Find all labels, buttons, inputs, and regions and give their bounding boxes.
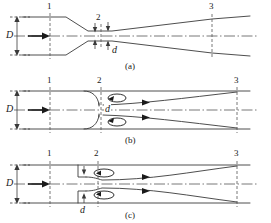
caption-a: (a)	[125, 62, 135, 71]
flow-arrow-a	[28, 32, 50, 39]
dim-label-d-c: d	[80, 205, 85, 215]
upper-wall-a	[22, 16, 250, 31]
flow-arrow-c	[28, 180, 50, 187]
lower-wall-a	[22, 41, 250, 56]
station-label-3-a: 3	[209, 2, 214, 11]
panel-c: 1 2 3 D d (c)	[0, 148, 271, 223]
nozzle-upper-b	[84, 91, 99, 105]
panel-c-drawing	[0, 148, 271, 223]
eddy-upper-b	[108, 94, 126, 102]
eddy-lower-b	[108, 118, 126, 126]
dim-label-d-a: d	[112, 45, 117, 55]
station-label-2-a: 2	[96, 13, 101, 22]
dim-d-c	[82, 166, 86, 203]
jet-lower-b	[103, 115, 237, 128]
caption-c: (c)	[125, 211, 135, 220]
nozzle-lower-b	[84, 115, 99, 129]
panel-b: 1 2 3 D d (b)	[0, 74, 271, 148]
station-label-1-b: 1	[47, 76, 52, 85]
station-label-2-b: 2	[97, 76, 102, 85]
station-label-3-c: 3	[234, 149, 239, 158]
station-label-1-a: 1	[47, 2, 52, 11]
caption-b: (b)	[125, 136, 136, 145]
eddy-upper-c	[94, 169, 114, 177]
dim-label-D-c: D	[6, 178, 13, 188]
station-label-1-c: 1	[47, 149, 52, 158]
panel-a: 1 2 3 D d (a)	[0, 0, 271, 74]
station-label-3-b: 3	[234, 76, 239, 85]
figure-container: 1 2 3 D d (a)	[0, 0, 271, 223]
station-label-2-c: 2	[94, 149, 99, 158]
jet-upper-b	[103, 92, 237, 105]
dim-label-D-b: D	[6, 104, 13, 114]
flow-arrow-b	[28, 106, 50, 113]
jet-upper-c	[86, 166, 237, 180]
panel-b-drawing	[0, 74, 271, 148]
jet-lower-c	[86, 188, 237, 202]
dim-label-d-b: d	[104, 104, 111, 114]
panel-a-drawing	[0, 0, 271, 74]
eddy-lower-c	[94, 191, 114, 199]
dim-label-D-a: D	[6, 30, 13, 40]
